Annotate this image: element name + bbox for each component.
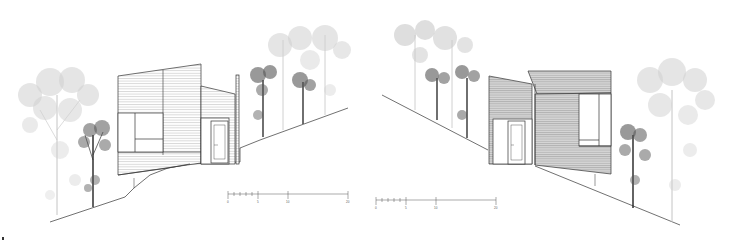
scale-label: 5 [405,206,407,210]
scale-label: 20 [494,206,498,210]
architectural-drawing: 0 5 10 20 [0,0,729,240]
scale-label: 10 [286,200,290,204]
ground-line [382,95,488,150]
scale-label: 20 [346,200,350,204]
fin-wall [236,75,239,164]
tree-dark-icon [78,120,111,207]
tree-dark-icon [425,65,480,138]
roof-volume [528,71,611,94]
scale-bar-left: 0 5 10 20 [227,191,350,204]
house-right [489,71,611,186]
scale-label: 0 [227,200,229,204]
tree-dark-icon [619,124,651,208]
scale-label: 10 [434,206,438,210]
house-left [118,64,239,188]
window [579,94,611,146]
scale-label: 0 [375,206,377,210]
tree-light-icon [637,58,715,222]
tree-light-icon [268,25,351,130]
door [211,121,228,163]
ground-line [535,166,680,225]
scale-bar-right: 0 5 10 20 [375,197,498,210]
left-elevation: 0 5 10 20 [18,25,351,222]
right-elevation: 0 5 10 20 [375,20,715,225]
door [508,121,525,164]
window [118,113,163,152]
scale-label: 5 [257,200,259,204]
